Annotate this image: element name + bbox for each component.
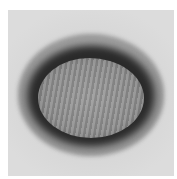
particle-core [38,58,144,138]
micrograph-image [8,10,174,176]
